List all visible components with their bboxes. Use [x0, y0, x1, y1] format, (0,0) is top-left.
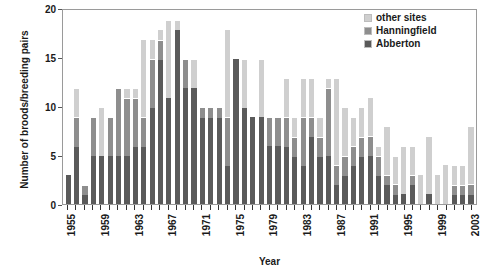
bar-segment-abberton	[284, 147, 289, 204]
bar-segment-abberton	[460, 195, 465, 204]
x-axis-tick-wrap	[71, 205, 79, 210]
bar-segment-hanningfield	[158, 40, 163, 60]
bar-segment-other	[259, 59, 264, 118]
x-axis-tickmark	[319, 205, 320, 210]
x-axis-tick-wrap	[181, 205, 189, 210]
bar-column-1988	[341, 10, 349, 204]
stacked-bar	[384, 126, 389, 204]
x-axis-tickmark	[252, 205, 253, 210]
x-axis-tickmark	[134, 205, 135, 210]
x-axis-tick-wrap	[231, 205, 239, 210]
bar-segment-other	[326, 78, 331, 89]
bar-segment-abberton	[191, 88, 196, 204]
x-axis-label-wrap	[358, 211, 366, 249]
x-axis-tickmark	[454, 205, 455, 210]
x-axis-label-wrap: 1995	[400, 211, 408, 249]
x-axis-label-wrap	[282, 211, 290, 249]
x-axis-label-wrap	[248, 211, 256, 249]
bar-segment-abberton	[91, 156, 96, 204]
stacked-bar	[368, 97, 373, 204]
x-axis-tickmark	[244, 205, 245, 210]
y-axis-tick-0: 0	[26, 200, 56, 211]
x-axis-label-wrap: 1999	[434, 211, 442, 249]
bar-column-1978	[257, 10, 265, 204]
bar-segment-other	[175, 20, 180, 31]
x-axis-label-wrap: 2003	[467, 211, 475, 249]
x-axis-tick-wrap	[274, 205, 282, 210]
bar-segment-abberton	[116, 156, 121, 204]
bar-segment-hanningfield	[91, 117, 96, 156]
legend-swatch-abberton-icon	[364, 40, 372, 48]
stacked-bar	[133, 88, 138, 204]
bar-column-1959	[98, 10, 106, 204]
bar-segment-abberton	[108, 156, 113, 204]
x-axis-tick-wrap	[408, 205, 416, 210]
bar-segment-other	[351, 117, 356, 146]
stacked-bar	[183, 59, 188, 205]
x-axis-tickmark	[201, 205, 202, 210]
legend-item-abberton: Abberton	[364, 37, 437, 50]
stacked-bar	[376, 146, 381, 204]
bar-segment-other	[468, 126, 473, 184]
bar-segment-hanningfield	[292, 137, 297, 157]
x-axis-label-wrap: 1979	[265, 211, 273, 249]
stacked-bar	[351, 117, 356, 204]
bar-column-1972	[207, 10, 215, 204]
x-axis-label-wrap	[105, 211, 113, 249]
x-axis-tick-wrap	[240, 205, 248, 210]
stacked-bar	[401, 146, 406, 204]
stacked-bar	[275, 117, 280, 204]
x-axis-tick-wrap	[198, 205, 206, 210]
stacked-bar	[233, 59, 238, 205]
x-axis-tickmark	[387, 205, 388, 210]
stacked-bar	[82, 185, 87, 204]
x-axis-label-wrap	[375, 211, 383, 249]
stacked-bar	[74, 88, 79, 204]
bar-segment-other	[141, 39, 146, 117]
bar-segment-abberton	[158, 60, 163, 204]
x-axis-tickmark	[463, 205, 464, 210]
bar-segment-hanningfield	[452, 185, 457, 195]
x-axis-tick-wrap	[105, 205, 113, 210]
x-axis-label-wrap: 1987	[333, 211, 341, 249]
bar-segment-other	[292, 117, 297, 137]
bar-column-2002	[458, 10, 466, 204]
x-axis-label-wrap	[307, 211, 315, 249]
bar-column-1965	[148, 10, 156, 204]
x-axis-label-wrap	[88, 211, 96, 249]
bar-segment-other	[384, 126, 389, 174]
bar-segment-abberton	[292, 157, 297, 204]
x-axis-label-wrap: 1975	[231, 211, 239, 249]
x-axis-tick-2003: 2003	[470, 214, 481, 236]
x-axis-tickmark	[404, 205, 405, 210]
x-axis-tick-wrap	[467, 205, 475, 210]
x-axis-tickmark	[176, 205, 177, 210]
stacked-bar	[460, 165, 465, 204]
bar-segment-hanningfield	[217, 107, 222, 118]
x-axis-tickmark	[286, 205, 287, 210]
bar-column-1974	[223, 10, 231, 204]
x-axis-tick-wrap	[189, 205, 197, 210]
bar-segment-abberton	[141, 147, 146, 204]
bar-segment-abberton	[309, 137, 314, 204]
x-axis-tick-wrap	[417, 205, 425, 210]
x-axis-label-wrap	[417, 211, 425, 249]
bar-segment-hanningfield	[410, 175, 415, 185]
x-axis-tick-wrap	[223, 205, 231, 210]
y-axis-tick-5: 5	[26, 151, 56, 162]
x-axis-label-wrap	[316, 211, 324, 249]
bar-segment-other	[452, 165, 457, 184]
x-axis-tickmark	[143, 205, 144, 210]
bar-column-1967	[165, 10, 173, 204]
y-axis-tick-15: 15	[26, 53, 56, 64]
bar-segment-hanningfield	[393, 184, 398, 194]
bar-segment-other	[166, 20, 171, 98]
stacked-bar	[468, 126, 473, 204]
bar-segment-abberton	[233, 59, 238, 205]
stacked-bar	[99, 107, 104, 204]
x-axis-label-wrap: 1967	[164, 211, 172, 249]
bar-segment-other	[393, 156, 398, 185]
stacked-bar	[410, 146, 415, 204]
x-axis-tickmark	[218, 205, 219, 210]
bar-segment-abberton	[426, 194, 431, 204]
